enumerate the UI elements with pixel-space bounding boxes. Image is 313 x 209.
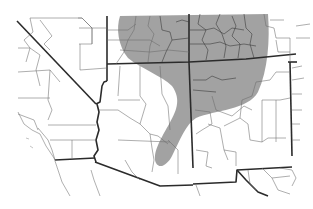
border-az-mexico	[95, 162, 193, 186]
range-map: Southwestern United States	[0, 0, 313, 209]
border-nm-tx	[290, 62, 292, 156]
map-svg	[0, 0, 313, 209]
border-ca-mexico	[55, 158, 95, 160]
border-colorado-river	[94, 81, 107, 162]
border-rio-grande	[237, 170, 268, 196]
border-ca-nv	[17, 21, 96, 104]
